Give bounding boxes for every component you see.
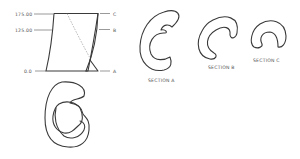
section-a-label: SECTION A xyxy=(148,78,175,83)
level-label-0: 0.0 xyxy=(24,69,32,74)
section-c: SECTION C xyxy=(251,21,286,63)
section-a: SECTION A xyxy=(140,11,179,83)
section-b: SECTION B xyxy=(198,17,237,70)
section-a-outline xyxy=(140,11,179,71)
level-label-175: 175.00 xyxy=(15,12,32,17)
section-c-outline xyxy=(251,21,286,48)
plan-inner-outline xyxy=(53,102,83,133)
elevation-view: 175.00 125.00 0.0 C B A xyxy=(15,12,117,75)
marker-c: C xyxy=(113,12,116,17)
elevation-outline xyxy=(46,14,98,72)
plan-view xyxy=(45,82,89,147)
level-label-125: 125.00 xyxy=(15,28,32,33)
technical-drawing: 175.00 125.00 0.0 C B A SECTION A SECTIO… xyxy=(0,0,300,159)
section-b-outline xyxy=(198,17,237,59)
section-c-label: SECTION C xyxy=(253,58,280,63)
marker-b: B xyxy=(113,28,116,33)
hidden-line xyxy=(67,14,90,59)
section-b-label: SECTION B xyxy=(208,65,235,70)
marker-a: A xyxy=(113,69,117,74)
